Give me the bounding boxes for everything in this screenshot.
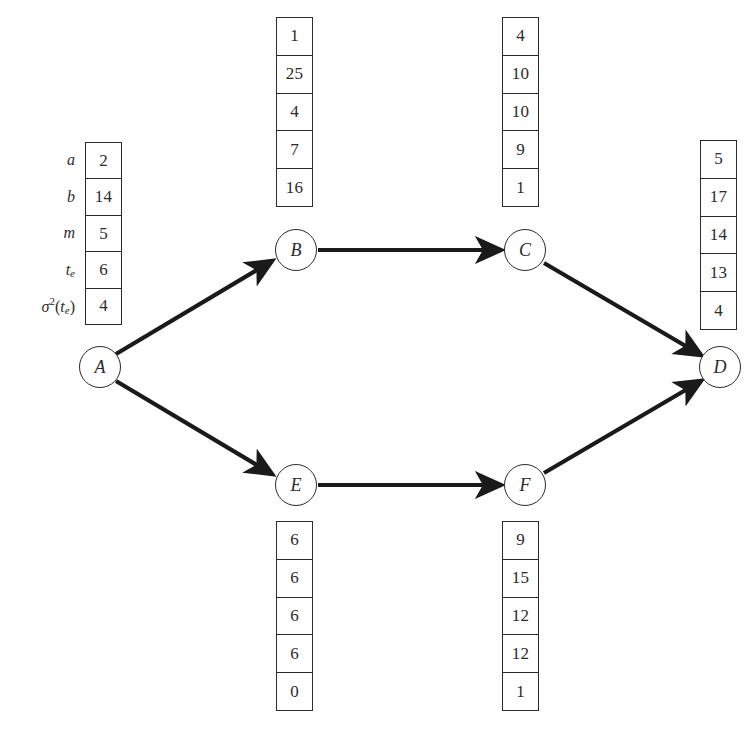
value-table-d: 5 17 14 13 4 <box>700 140 737 330</box>
table-cell: 15 <box>503 560 538 598</box>
row-label-variance: σ2(te) <box>10 288 82 325</box>
table-cell: 5 <box>86 216 121 252</box>
table-cell: 14 <box>701 217 736 255</box>
table-cell: 12 <box>503 598 538 636</box>
node-e[interactable]: E <box>275 464 317 506</box>
table-cell: 6 <box>277 560 312 598</box>
table-cell: 9 <box>503 522 538 560</box>
edge-f-d <box>544 381 701 473</box>
node-d[interactable]: D <box>699 346 741 388</box>
row-label-te: te <box>10 252 82 289</box>
node-a[interactable]: A <box>79 346 121 388</box>
row-label-m: m <box>10 215 82 252</box>
edge-c-d <box>544 263 701 355</box>
table-cell: 25 <box>277 56 312 94</box>
table-cell: 12 <box>503 635 538 673</box>
table-cell: 4 <box>277 94 312 132</box>
table-cell: 6 <box>86 252 121 288</box>
node-b[interactable]: B <box>275 229 317 271</box>
edge-a-e <box>116 381 272 474</box>
table-cell: 4 <box>86 289 121 324</box>
table-cell: 13 <box>701 254 736 292</box>
value-table-a: 2 14 5 6 4 <box>85 142 122 325</box>
table-cell: 10 <box>503 94 538 132</box>
row-label-b: b <box>10 179 82 216</box>
top-crop-artifact <box>430 0 610 3</box>
table-cell: 4 <box>503 18 538 56</box>
value-table-e: 6 6 6 6 0 <box>276 521 313 711</box>
node-f[interactable]: F <box>504 464 546 506</box>
table-cell: 4 <box>701 292 736 329</box>
diagram-canvas: a b m te σ2(te) 2 14 5 6 4 1 25 4 7 16 4… <box>0 0 756 744</box>
table-cell: 6 <box>277 635 312 673</box>
table-cell: 17 <box>701 179 736 217</box>
table-cell: 5 <box>701 141 736 179</box>
row-labels-group: a b m te σ2(te) <box>10 142 82 325</box>
table-cell: 6 <box>277 598 312 636</box>
table-cell: 1 <box>503 673 538 710</box>
table-cell: 1 <box>277 18 312 56</box>
row-label-a: a <box>10 142 82 179</box>
table-cell: 7 <box>277 131 312 169</box>
table-cell: 14 <box>86 179 121 215</box>
table-cell: 6 <box>277 522 312 560</box>
table-cell: 0 <box>277 673 312 710</box>
table-cell: 1 <box>503 169 538 206</box>
table-cell: 16 <box>277 169 312 206</box>
value-table-c: 4 10 10 9 1 <box>502 17 539 207</box>
edge-a-b <box>116 261 272 354</box>
node-c[interactable]: C <box>504 229 546 271</box>
table-cell: 10 <box>503 56 538 94</box>
value-table-f: 9 15 12 12 1 <box>502 521 539 711</box>
table-cell: 9 <box>503 131 538 169</box>
table-cell: 2 <box>86 143 121 179</box>
value-table-b: 1 25 4 7 16 <box>276 17 313 207</box>
